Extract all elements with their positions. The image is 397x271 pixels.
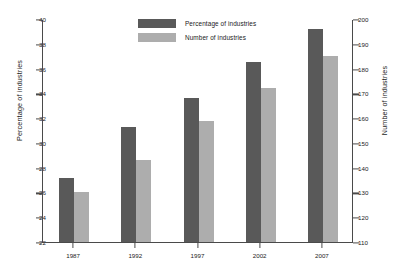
bar-percentage-2002 [246, 62, 261, 242]
bar-number-1987 [74, 192, 89, 242]
x-tick-mark-1992 [135, 243, 136, 248]
legend-item-percentage: Percentage of industries [138, 18, 256, 29]
bar-percentage-2007 [308, 29, 323, 242]
y-tick-mark-right [353, 69, 359, 70]
y-tick-mark-right [353, 242, 359, 243]
bar-percentage-1987 [59, 178, 74, 242]
y-tick-mark-right [353, 44, 359, 45]
x-tick-label-1987: 1987 [53, 252, 93, 259]
y-tick-label-right: 170 [358, 91, 384, 97]
legend-swatch-percentage-icon [138, 19, 176, 28]
y-tick-label-right: 140 [358, 166, 384, 172]
bar-number-1992 [136, 160, 151, 242]
legend-item-number: Number of industries [138, 32, 256, 43]
bar-chart: Percentage of industries Number of indus… [0, 0, 397, 271]
y-tick-mark-right [353, 19, 359, 20]
x-tick-label-1997: 1997 [178, 252, 218, 259]
y-tick-label-right: 150 [358, 141, 384, 147]
y-tick-mark-right [353, 193, 359, 194]
plot-area [42, 20, 353, 243]
y-tick-mark-right [353, 119, 359, 120]
bar-percentage-1992 [121, 127, 136, 242]
x-tick-label-2007: 2007 [302, 252, 342, 259]
y-tick-label-right: 180 [358, 66, 384, 72]
x-tick-mark-1987 [73, 243, 74, 248]
legend-label-number: Number of industries [185, 34, 246, 41]
legend-swatch-number-icon [138, 33, 176, 42]
bar-percentage-1997 [184, 98, 199, 242]
y-tick-label-right: 120 [358, 215, 384, 221]
y-tick-label-right: 160 [358, 116, 384, 122]
x-tick-mark-2007 [321, 243, 322, 248]
bar-number-2007 [323, 56, 338, 242]
legend-label-percentage: Percentage of industries [185, 20, 256, 27]
y-tick-label-right: 110 [358, 240, 384, 246]
chart-legend: Percentage of industries Number of indus… [138, 18, 256, 46]
x-tick-mark-1997 [197, 243, 198, 248]
x-tick-mark-2002 [259, 243, 260, 248]
y-tick-label-right: 200 [358, 17, 384, 23]
y-tick-mark-right [353, 94, 359, 95]
bar-number-2002 [261, 88, 276, 242]
y-tick-label-right: 130 [358, 190, 384, 196]
y-tick-mark-right [353, 168, 359, 169]
x-tick-label-2002: 2002 [240, 252, 280, 259]
y-tick-mark-right [353, 143, 359, 144]
x-tick-label-1992: 1992 [115, 252, 155, 259]
bar-number-1997 [199, 121, 214, 242]
y-tick-label-right: 190 [358, 42, 384, 48]
y-tick-mark-right [353, 218, 359, 219]
